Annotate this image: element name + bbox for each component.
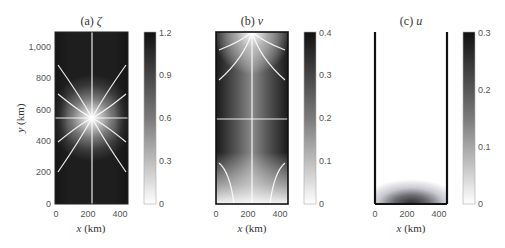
panel-a-ylabel: y (km)	[14, 103, 27, 133]
panel-b: (b)v 0 200 400 x (km) 0 0.1	[213, 14, 331, 235]
svg-text:400: 400	[431, 209, 446, 219]
svg-text:0.2: 0.2	[319, 113, 332, 123]
svg-text:0: 0	[372, 209, 377, 219]
svg-text:0.3: 0.3	[159, 156, 172, 166]
svg-text:0.1: 0.1	[478, 142, 491, 152]
panel-c-heatmap	[375, 32, 447, 204]
svg-text:400: 400	[112, 209, 127, 219]
panel-a: (a)ζ 0 200 400 600 800 1,000 y (km)	[14, 14, 172, 235]
panel-c-xaxis: 0 200 400	[372, 209, 446, 219]
svg-text:0.2: 0.2	[478, 85, 491, 95]
panel-a-xlabel: x (km)	[75, 222, 105, 235]
svg-text:400: 400	[272, 209, 287, 219]
panel-c-colorbar: 0 0.1 0.2 0.3	[463, 28, 491, 209]
svg-text:0.4: 0.4	[319, 28, 332, 38]
panel-c-xlabel: x (km)	[395, 222, 425, 235]
svg-text:0.3: 0.3	[478, 28, 491, 38]
svg-text:0: 0	[46, 199, 51, 209]
svg-text:1.2: 1.2	[159, 28, 172, 38]
panel-c-title: (c)u	[400, 14, 422, 28]
panel-b-xaxis: 0 200 400	[213, 209, 287, 219]
svg-text:600: 600	[36, 105, 51, 115]
panel-a-colorbar: 0 0.3 0.6 0.9 1.2	[144, 28, 172, 209]
panel-a-yaxis: 0 200 400 600 800 1,000	[28, 42, 51, 209]
figure: (a)ζ 0 200 400 600 800 1,000 y (km)	[0, 0, 505, 248]
svg-text:0: 0	[53, 209, 58, 219]
svg-text:200: 200	[80, 209, 95, 219]
panel-a-title: (a)ζ	[80, 14, 102, 28]
panel-b-colorbar: 0 0.1 0.2 0.3 0.4	[304, 28, 332, 209]
svg-text:0: 0	[478, 199, 483, 209]
svg-text:200: 200	[36, 167, 51, 177]
svg-text:0.3: 0.3	[319, 70, 332, 80]
panel-a-xaxis: 0 200 400	[53, 209, 127, 219]
panel-c: (c)u 0 200 400 x (km) 0 0.1 0.2 0.3	[372, 14, 490, 235]
svg-text:0: 0	[159, 199, 164, 209]
svg-text:800: 800	[36, 73, 51, 83]
svg-text:200: 200	[399, 209, 414, 219]
panel-b-xlabel: x (km)	[236, 222, 266, 235]
svg-text:200: 200	[240, 209, 255, 219]
svg-text:0: 0	[213, 209, 218, 219]
svg-text:1,000: 1,000	[28, 42, 51, 52]
svg-text:400: 400	[36, 136, 51, 146]
svg-text:0: 0	[319, 199, 324, 209]
panel-b-title: (b)v	[241, 14, 264, 28]
svg-text:0.6: 0.6	[159, 113, 172, 123]
svg-text:0.1: 0.1	[319, 156, 332, 166]
svg-text:0.9: 0.9	[159, 70, 172, 80]
